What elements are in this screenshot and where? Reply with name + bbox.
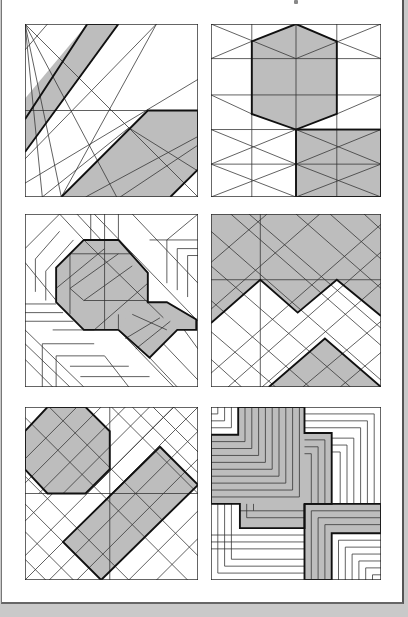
diagram-top-right — [211, 24, 381, 197]
page — [1, 0, 404, 604]
scan-mark — [294, 0, 298, 4]
diagram-bottom-left — [25, 407, 198, 580]
diagram-middle-left — [25, 214, 198, 387]
diagram-middle-right — [211, 214, 381, 387]
diagram-bottom-right — [211, 407, 381, 580]
diagram-top-left — [25, 24, 198, 197]
